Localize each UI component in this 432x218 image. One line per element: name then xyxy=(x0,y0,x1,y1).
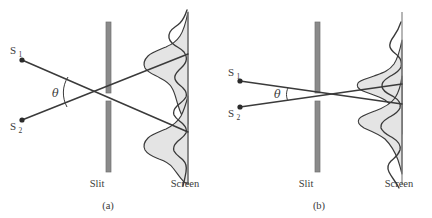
panel-caption-b: (b) xyxy=(313,200,326,212)
panel-b: S 1 S 2 θ Slit Screen (b) xyxy=(216,0,432,218)
screen-label-a: Screen xyxy=(171,178,200,189)
source-label-s1-a-sub: 1 xyxy=(19,50,23,59)
slit-bar-lower-a xyxy=(106,101,111,172)
angle-label-a: θ xyxy=(52,87,59,100)
ray-from-s2-a xyxy=(22,54,188,120)
intensity-pattern-a xyxy=(144,10,188,186)
panel-a: S 1 S 2 θ Slit Screen (a) xyxy=(0,0,216,218)
source-label-s1-b-text: S xyxy=(228,66,234,78)
source-label-s2-b-text: S xyxy=(228,107,234,119)
figure-root: S 1 S 2 θ Slit Screen (a) xyxy=(0,0,432,218)
slit-label-b: Slit xyxy=(299,178,314,189)
source-label-s1-b: S 1 xyxy=(228,66,241,81)
source-label-s1-b-sub: 1 xyxy=(237,72,241,81)
source-point-s2-a xyxy=(19,117,24,122)
slit-bar-upper-b xyxy=(315,22,320,93)
source-point-s2-b xyxy=(237,104,242,109)
panel-caption-a: (a) xyxy=(102,200,114,212)
source-label-s2-a-sub: 2 xyxy=(19,126,23,135)
slit-bar-upper-a xyxy=(106,22,111,93)
slit-label-a: Slit xyxy=(90,178,105,189)
source-label-s1-a-text: S xyxy=(10,44,16,56)
source-label-s2-a: S 2 xyxy=(10,120,23,135)
intensity-pattern-b xyxy=(357,22,402,188)
source-label-s1-a: S 1 xyxy=(10,44,23,59)
source-label-s2-b: S 2 xyxy=(228,107,241,122)
angle-label-b: θ xyxy=(274,88,281,101)
source-label-s2-b-sub: 2 xyxy=(237,113,241,122)
slit-bar-lower-b xyxy=(315,101,320,172)
source-label-s2-a-text: S xyxy=(10,120,16,132)
angle-arc-b xyxy=(287,88,289,101)
screen-label-b: Screen xyxy=(385,178,414,189)
